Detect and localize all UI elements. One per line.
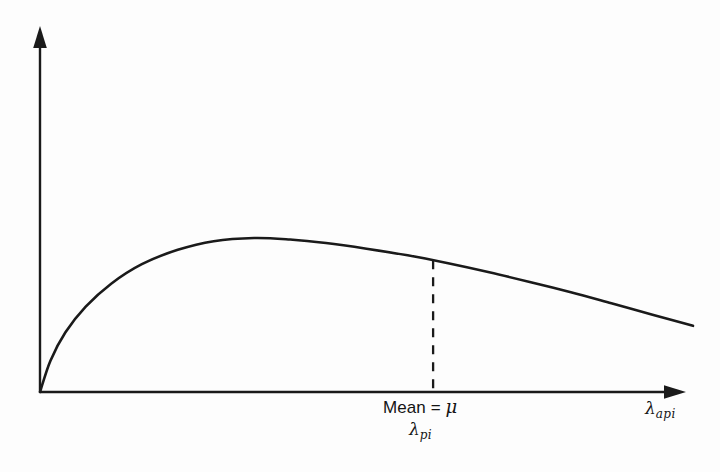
mean-sublabel: λpi	[409, 421, 432, 441]
mu-symbol: μ	[446, 396, 458, 417]
x-axis-label-subscript: api	[656, 407, 676, 421]
x-axis-arrow-icon	[664, 385, 686, 399]
distribution-figure: Mean = μ λpi λapi	[0, 0, 720, 472]
density-curve	[40, 238, 693, 392]
y-axis-arrow-icon	[33, 26, 47, 48]
mean-label: Mean = μ	[383, 398, 457, 417]
plot-canvas	[0, 0, 720, 472]
mean-sublabel-subscript: pi	[420, 428, 432, 442]
y-axis	[33, 26, 47, 392]
x-axis	[40, 385, 686, 399]
mean-label-prefix: Mean =	[383, 398, 446, 417]
mean-sublabel-lambda: λ	[409, 419, 420, 439]
x-axis-label: λapi	[645, 400, 676, 420]
x-axis-label-lambda: λ	[645, 398, 656, 418]
